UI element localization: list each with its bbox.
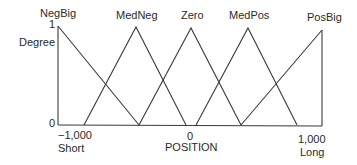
x-tick-min-sublabel: Short — [58, 142, 84, 154]
x-tick-max: 1,000 — [298, 133, 326, 145]
x-axis — [58, 125, 322, 126]
x-tick-min: −1,000 — [58, 129, 92, 141]
posbig-curve — [241, 30, 322, 125]
x-tick-max-sublabel: Long — [300, 146, 324, 158]
zero-label: Zero — [181, 9, 204, 21]
zero-curve — [139, 28, 241, 125]
y-tick-zero: 0 — [49, 117, 55, 129]
medpos-label: MedPos — [229, 9, 269, 21]
y-tick-one: 1 — [49, 18, 55, 30]
posbig-label: PosBig — [307, 11, 342, 23]
y-axis-label: Degree — [19, 36, 55, 48]
negbig-curve — [58, 26, 139, 125]
x-axis-label: POSITION — [165, 141, 218, 153]
negbig-label: NegBig — [40, 7, 76, 19]
medneg-label: MedNeg — [116, 9, 158, 21]
